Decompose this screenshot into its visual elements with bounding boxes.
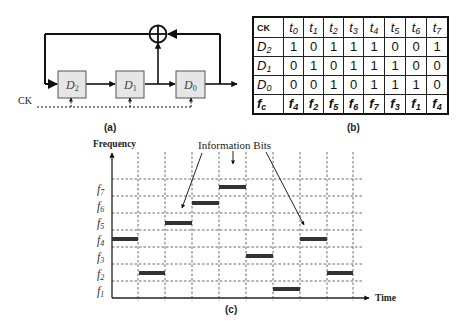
y-axis-label: Frequency	[93, 139, 136, 149]
vertical-grid	[138, 152, 353, 301]
x-axis-label: Time	[375, 293, 396, 303]
header-ck: CK	[257, 23, 270, 33]
hop-bar-slot7-f1	[273, 287, 300, 291]
hop-bar-slot5-f7	[219, 185, 246, 189]
hop-bars	[112, 185, 353, 291]
hop-bar-slot1-f4	[112, 237, 138, 241]
svg-text:f2: f2	[97, 267, 104, 282]
table-header-row: CK t0 t1 t2 t3 t4 t5 t6 t7	[253, 17, 448, 38]
svg-text:f1: f1	[97, 284, 104, 299]
hop-bar-slot8-f4	[300, 237, 327, 241]
hop-bar-slot3-f5	[165, 221, 192, 225]
svg-text:f3: f3	[97, 250, 104, 265]
hopping-chart	[112, 151, 369, 301]
caption-a: (a)	[104, 122, 116, 133]
horizontal-grid	[112, 179, 362, 281]
y-level-labels: f7 f6 f5 f4 f3 f2 f1	[97, 182, 105, 299]
svg-text:f4: f4	[97, 233, 104, 248]
table-row-d0: D0 00 10 11 10	[253, 76, 448, 95]
state-table: CK t0 t1 t2 t3 t4 t5 t6 t7 D2 10 11 10 0…	[252, 16, 449, 115]
annotation-arrow-right	[266, 152, 304, 225]
svg-text:f7: f7	[97, 182, 105, 197]
hop-bar-slot4-f6	[192, 201, 219, 205]
table-row-fc: fc f4 f2 f5 f6 f7 f3 f1 f4	[253, 95, 448, 115]
table-row-d2: D2 10 11 10 01	[253, 38, 448, 57]
caption-b: (b)	[347, 122, 360, 133]
table-row-d1: D1 01 01 11 00	[253, 57, 448, 76]
clock-label: CK	[18, 95, 33, 106]
hop-bar-slot6-f3	[246, 254, 273, 258]
svg-text:f6: f6	[97, 199, 104, 214]
annotation-label: Information Bits	[198, 139, 271, 151]
hop-bar-slot9-f2	[327, 271, 353, 275]
caption-c: (c)	[225, 304, 237, 315]
hop-bar-slot2-f2	[139, 271, 165, 275]
lfsr-circuit	[37, 26, 237, 108]
svg-text:f5: f5	[97, 216, 104, 231]
